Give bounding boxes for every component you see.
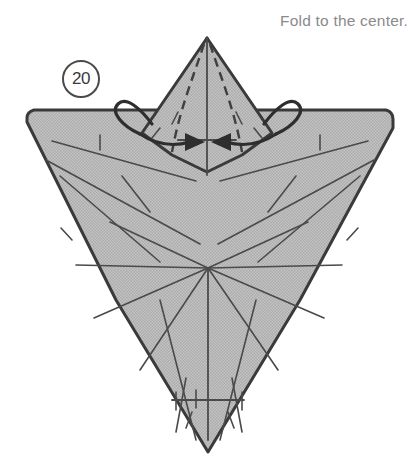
tick-mark [61,228,72,240]
step-number-badge: 20 [62,60,100,98]
instruction-caption: Fold to the center. [280,12,408,30]
step-number-label: 20 [72,69,90,89]
origami-diagram: Fold to the center. 20 [0,0,420,472]
tick-mark [347,228,358,240]
